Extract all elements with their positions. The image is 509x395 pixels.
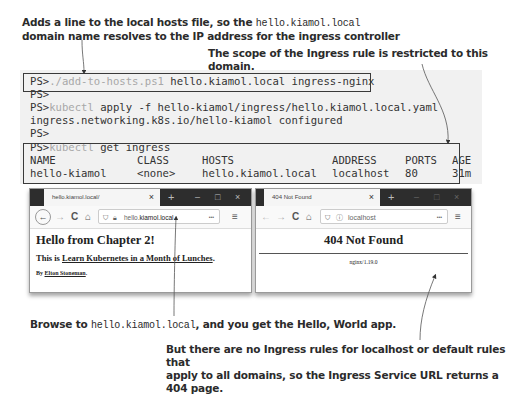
callout-arrows xyxy=(0,0,509,385)
